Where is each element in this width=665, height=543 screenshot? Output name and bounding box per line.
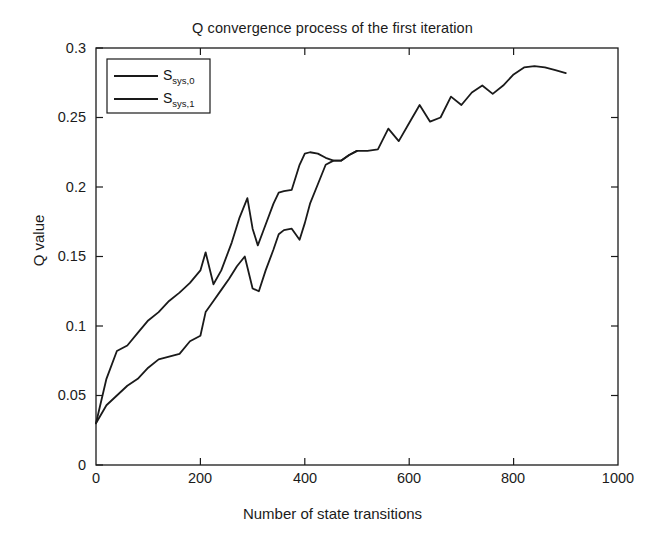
legend-label-subscript: sys,1 — [172, 98, 194, 109]
plot-area — [0, 0, 665, 543]
legend-label-s-sys-0: Ssys,0 — [163, 67, 195, 86]
legend-label-s-sys-1: Ssys,1 — [163, 90, 195, 109]
legend-label-subscript: sys,0 — [172, 75, 194, 86]
legend-box — [107, 59, 210, 113]
legend-label-base: S — [163, 67, 172, 83]
series-line-s-sys-1 — [96, 151, 357, 423]
x-tick-marks — [200, 48, 513, 465]
series-line-s-sys-0 — [96, 66, 566, 423]
legend-label-base: S — [163, 90, 172, 106]
figure-container: Q convergence process of the first itera… — [0, 0, 665, 543]
